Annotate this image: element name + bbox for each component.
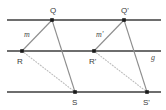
point-label-Sp: S' — [143, 98, 150, 107]
segment-label-m-prime: m' — [96, 30, 104, 39]
geometry-figure: Q Q' R R' S S' m m' g — [0, 0, 166, 110]
geometry-canvas: Q Q' R R' S S' m m' g — [0, 0, 166, 110]
point-marker-Sp — [145, 90, 149, 94]
segment-Qp-Sp — [124, 20, 147, 92]
segment-Q-S — [52, 20, 75, 92]
segment-R-S-dotted — [22, 51, 75, 92]
point-marker-Rp — [92, 49, 96, 53]
segment-Rp-Sp-dotted — [94, 51, 147, 92]
point-label-Rp: R' — [89, 57, 97, 66]
point-label-R: R — [17, 57, 23, 66]
point-label-Q: Q — [50, 6, 56, 15]
line-label-g: g — [151, 53, 155, 62]
point-marker-S — [73, 90, 77, 94]
point-marker-R — [20, 49, 24, 53]
point-marker-Qp — [122, 18, 126, 22]
point-label-S: S — [72, 98, 77, 107]
point-label-Qp: Q' — [121, 6, 129, 15]
point-marker-Q — [50, 18, 54, 22]
segment-label-m: m — [24, 30, 30, 39]
